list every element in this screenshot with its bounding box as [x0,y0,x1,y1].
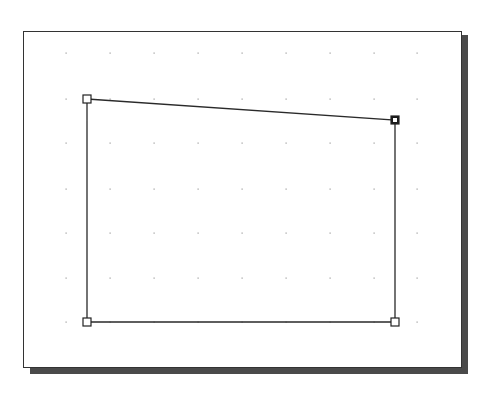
handle-square-icon [83,95,91,103]
handle-bottom-right[interactable] [391,318,399,326]
handle-square-icon [391,318,399,326]
handle-inner-icon [393,118,397,122]
handle-square-icon [83,318,91,326]
polygon-outline[interactable] [87,99,395,322]
handle-bottom-left[interactable] [83,318,91,326]
handle-top-left[interactable] [83,95,91,103]
polygon-shape[interactable] [87,99,395,322]
handle-top-right[interactable] [391,116,399,124]
